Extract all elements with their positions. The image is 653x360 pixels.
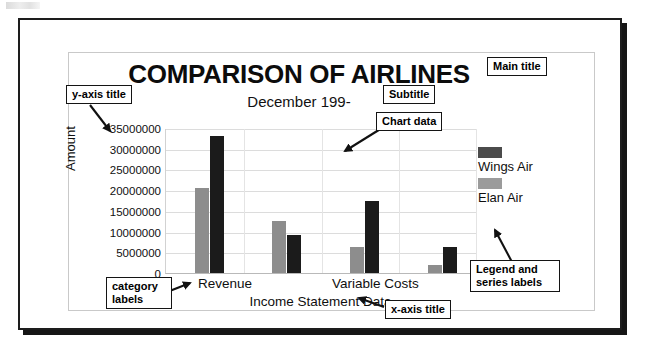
chart-legend[interactable]: Wings Air Elan Air — [478, 147, 533, 209]
gridline-vertical — [322, 129, 323, 273]
plot-area-wrapper — [165, 129, 476, 274]
bar-elan-revenue[interactable] — [195, 188, 209, 273]
callout-main-title[interactable]: Main title — [487, 57, 547, 76]
y-tick-label: 30000000 — [110, 144, 161, 156]
gridline-vertical — [476, 129, 477, 273]
bar-elan-variable-costs[interactable] — [350, 247, 364, 273]
y-tick-label: 5000000 — [116, 247, 161, 259]
y-axis-tick-labels: 35000000 30000000 25000000 20000000 1500… — [67, 129, 161, 274]
bar-wings-revenue[interactable] — [210, 136, 224, 273]
callout-subtitle[interactable]: Subtitle — [383, 85, 435, 104]
legend-swatch-icon — [478, 147, 502, 158]
bar-elan-fixed-costs[interactable] — [272, 221, 286, 273]
callout-line-2: series labels — [476, 276, 542, 288]
y-tick-label: 20000000 — [110, 185, 161, 197]
legend-label: Elan Air — [478, 190, 533, 206]
legend-entry-wings-air[interactable]: Wings Air — [478, 147, 533, 175]
chart-subtitle: December 199- — [69, 93, 529, 110]
legend-entry-elan-air[interactable]: Elan Air — [478, 178, 533, 206]
category-label-revenue: Revenue — [198, 276, 252, 291]
callout-chart-data[interactable]: Chart data — [376, 112, 442, 131]
y-tick-label: 35000000 — [110, 123, 161, 135]
callout-legend-series[interactable]: Legend and series labels — [470, 260, 560, 292]
legend-swatch-icon — [478, 178, 502, 189]
category-label-variable-costs: Variable Costs — [332, 276, 419, 291]
scan-artifact — [6, 2, 40, 9]
y-tick-label: 10000000 — [110, 227, 161, 239]
callout-line-2: labels — [112, 293, 143, 305]
y-tick-label: 25000000 — [110, 164, 161, 176]
callout-category-labels[interactable]: category labels — [106, 277, 172, 309]
bar-elan-net-income[interactable] — [428, 265, 442, 273]
y-tick-label: 15000000 — [110, 206, 161, 218]
gridline-vertical — [399, 129, 400, 273]
bar-wings-net-income[interactable] — [443, 247, 457, 273]
figure-root: COMPARISON OF AIRLINES December 199- Amo… — [0, 0, 653, 360]
callout-y-axis-title[interactable]: y-axis title — [66, 85, 132, 104]
chart-main-title: COMPARISON OF AIRLINES — [69, 59, 529, 90]
gridline-vertical — [244, 129, 245, 273]
callout-line-1: Legend and — [476, 263, 538, 275]
bar-wings-fixed-costs[interactable] — [287, 235, 301, 274]
bar-wings-variable-costs[interactable] — [365, 201, 379, 273]
callout-x-axis-title[interactable]: x-axis title — [385, 300, 451, 319]
legend-label: Wings Air — [478, 159, 533, 175]
callout-line-1: category — [112, 280, 158, 292]
plot-area — [165, 129, 476, 274]
